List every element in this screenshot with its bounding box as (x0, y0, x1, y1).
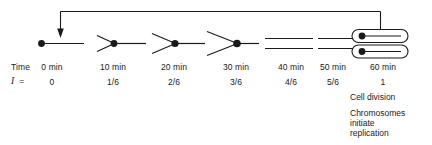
origin-dot-icon (233, 40, 241, 48)
annotation-chromosomes-line-3: replication (350, 128, 389, 139)
i-value-60min: 1 (381, 77, 386, 87)
origin-dot-icon (38, 40, 45, 47)
stage-icon-20min (152, 34, 205, 54)
i-row-label: I= (11, 76, 24, 86)
i-value-10min: 1/6 (107, 77, 119, 87)
stage-icon-0min (38, 40, 84, 47)
annotation-chromosomes-line-1: Chromosomes (350, 108, 405, 119)
time-value-40min: 40 min (278, 62, 304, 72)
daughter-cell-lower (352, 45, 408, 58)
arrowhead-icon (57, 29, 64, 39)
origin-dot-icon (111, 40, 118, 47)
stage-icon-10min (97, 36, 146, 52)
daughter-cell-upper (352, 30, 408, 43)
time-value-30min: 30 min (223, 62, 249, 72)
origin-dot-icon (359, 33, 366, 40)
time-value-10min: 10 min (100, 62, 126, 72)
stage-icon-30min (207, 32, 259, 56)
time-value-60min: 60 min (370, 62, 396, 72)
time-value-20min: 20 min (161, 62, 187, 72)
i-value-20min: 2/6 (168, 77, 180, 87)
i-symbol: I (11, 76, 14, 86)
stage-icon-50min (318, 39, 358, 49)
time-row-label: Time (11, 62, 30, 72)
origin-dot-icon (359, 48, 366, 55)
replication-cycle-figure: Time I= 0 min 10 min 20 min 30 min 40 mi… (0, 0, 432, 145)
time-value-50min: 50 min (320, 62, 346, 72)
i-value-40min: 4/6 (285, 77, 297, 87)
annotation-chromosomes-line-2: initiate (350, 118, 375, 129)
i-value-0min: 0 (50, 77, 55, 87)
stage-icon-60min (352, 30, 408, 59)
origin-dot-icon (171, 40, 178, 47)
annotation-cell-division: Cell division (350, 92, 395, 103)
time-value-0min: 0 min (41, 62, 62, 72)
i-value-30min: 3/6 (230, 77, 242, 87)
i-value-50min: 5/6 (327, 77, 339, 87)
i-equals-sign: = (19, 76, 24, 86)
stage-icon-40min (265, 39, 313, 49)
cycle-feedback-arrow (57, 12, 380, 39)
